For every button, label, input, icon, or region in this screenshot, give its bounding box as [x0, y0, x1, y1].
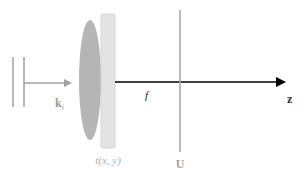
transparency-plate — [101, 14, 115, 148]
output-plane-label: U — [176, 157, 185, 171]
lens — [79, 20, 101, 140]
transparency-label: t(x, y) — [95, 154, 121, 167]
focal-length-label: f — [145, 89, 150, 101]
wavevector-label-sub: i — [62, 103, 64, 112]
optics-diagram: ki t(x, y) f U z — [0, 0, 304, 179]
wavevector-label: ki — [55, 96, 64, 112]
axis-z-label: z — [287, 92, 293, 106]
